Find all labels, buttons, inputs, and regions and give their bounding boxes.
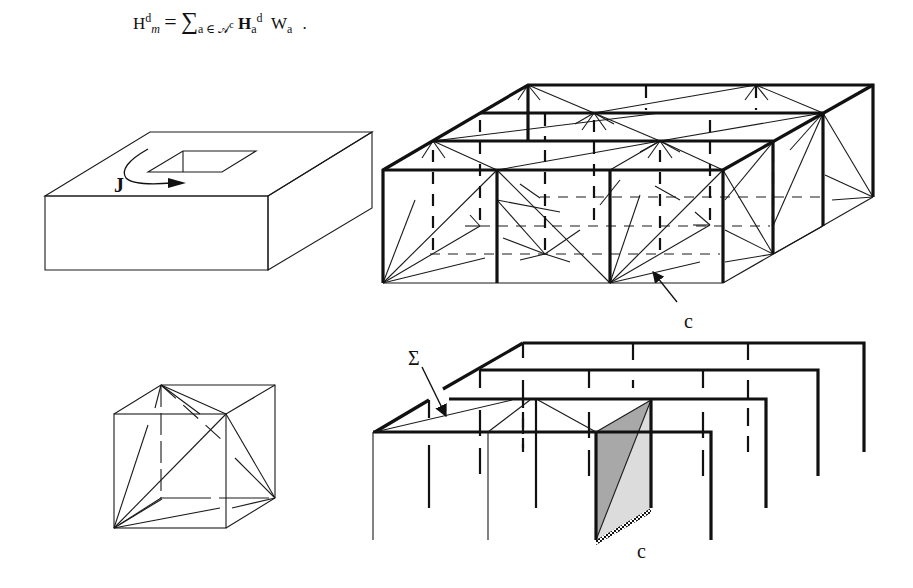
planes-figure: Σ c bbox=[373, 343, 864, 562]
slab-front-face bbox=[45, 196, 268, 270]
cube-edges bbox=[114, 385, 275, 528]
surface-pointer-arrow bbox=[422, 367, 446, 416]
slab-hole bbox=[148, 151, 256, 172]
plane-2 bbox=[375, 398, 766, 508]
current-label: J bbox=[114, 174, 124, 196]
lattice-cell-pointer-arrow bbox=[653, 272, 677, 302]
slab-figure: J bbox=[45, 132, 372, 270]
current-arrow bbox=[124, 149, 172, 184]
lattice-cell-label: c bbox=[684, 310, 693, 332]
lattice-frame bbox=[383, 85, 873, 283]
slab-top-face bbox=[45, 132, 372, 196]
figure-canvas: J bbox=[0, 0, 913, 588]
current-arrowhead-icon bbox=[168, 178, 186, 188]
planes-cell-label: c bbox=[637, 540, 646, 562]
surface-label: Σ bbox=[408, 347, 420, 369]
plane-1 bbox=[373, 400, 711, 540]
cube-figure bbox=[114, 385, 275, 528]
slab-side-face bbox=[268, 132, 372, 270]
shaded-cell bbox=[596, 400, 651, 545]
lattice-figure: c bbox=[383, 85, 873, 332]
